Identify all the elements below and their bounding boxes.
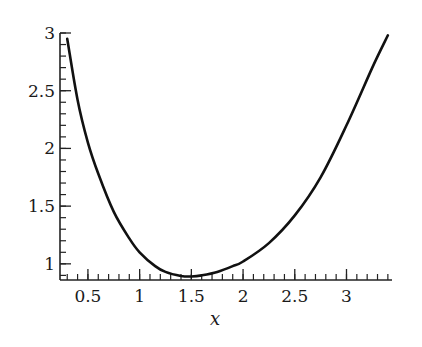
x-tick-label: 1 bbox=[134, 286, 145, 306]
y-tick-label: 2 bbox=[44, 138, 55, 158]
x-tick-label: 0.5 bbox=[74, 286, 101, 306]
x-tick-label: 2.5 bbox=[281, 286, 308, 306]
x-tick-label: 1.5 bbox=[178, 286, 205, 306]
y-tick-label: 3 bbox=[44, 23, 55, 43]
major-ticks bbox=[60, 33, 346, 280]
y-tick-label: 1 bbox=[44, 254, 55, 274]
minor-ticks bbox=[60, 33, 388, 280]
x-axis-label: x bbox=[210, 308, 220, 329]
y-tick-label: 2.5 bbox=[28, 81, 55, 101]
axes bbox=[60, 33, 392, 280]
tick-labels: 0.511.522.5311.522.53 bbox=[28, 23, 352, 306]
y-tick-label: 1.5 bbox=[28, 196, 55, 216]
x-tick-label: 2 bbox=[238, 286, 249, 306]
data-curve bbox=[67, 35, 388, 276]
x-tick-label: 3 bbox=[341, 286, 352, 306]
line-chart: 0.511.522.5311.522.53 x bbox=[0, 0, 422, 347]
